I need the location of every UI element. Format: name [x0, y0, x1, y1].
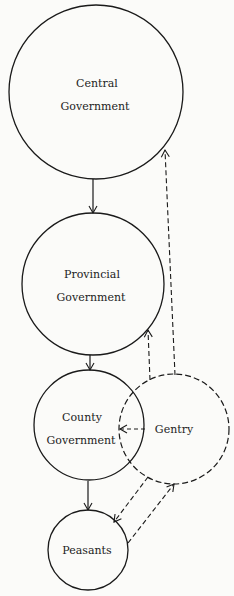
county-label-line2: Government — [47, 434, 117, 447]
node-provincial-government: Provincial Government — [22, 213, 164, 355]
provincial-label-line1: Provincial — [64, 268, 120, 281]
central-label-line1: Central — [76, 77, 118, 90]
power-structure-diagram: Central Government Provincial Government… — [0, 0, 234, 596]
node-central-government: Central Government — [9, 5, 183, 179]
gentry-label: Gentry — [155, 423, 194, 436]
node-peasants: Peasants — [48, 510, 128, 590]
node-county-government: County Government — [34, 370, 144, 480]
peasants-label: Peasants — [62, 544, 112, 557]
arrow-gentry-to-provincial — [148, 330, 150, 380]
provincial-label-line2: Government — [57, 291, 127, 304]
arrow-gentry-to-peasants — [114, 477, 148, 522]
arrow-gentry-to-central — [165, 150, 175, 375]
central-label-line2: Government — [61, 100, 131, 113]
county-label-line1: County — [62, 411, 103, 424]
arrow-peasants-to-gentry — [128, 484, 174, 543]
